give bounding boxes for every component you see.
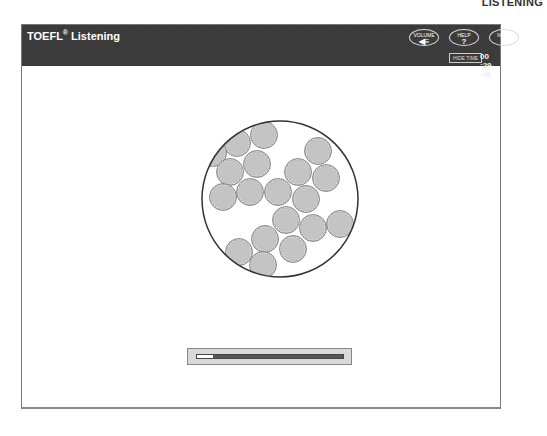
progress-track xyxy=(196,354,344,359)
particles-group xyxy=(200,122,354,279)
particle-core xyxy=(282,238,305,261)
audio-progress-bar xyxy=(187,348,352,365)
test-window: TOEFL® Listening VOLUME ◀≡ HELP ? NEXT ➜… xyxy=(21,24,501,409)
particle-core xyxy=(315,167,338,190)
particle-core xyxy=(246,153,269,176)
particle-core xyxy=(202,142,225,165)
particle-core xyxy=(275,209,298,232)
particle-core xyxy=(287,161,310,184)
progress-fill xyxy=(197,355,213,358)
particle-core xyxy=(329,213,352,236)
particle-core xyxy=(226,132,249,155)
particle-core xyxy=(254,228,277,251)
particle-core xyxy=(212,186,235,209)
section-label: LISTENING xyxy=(482,0,543,8)
particle-core xyxy=(302,217,325,240)
particle-core xyxy=(253,124,276,147)
particle-core xyxy=(267,181,290,204)
particle-core xyxy=(307,140,330,163)
particle-core xyxy=(295,188,318,211)
particle-core xyxy=(219,161,242,184)
particle-core xyxy=(239,181,262,204)
